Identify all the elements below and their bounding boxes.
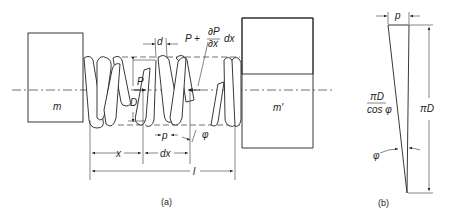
label-pitch: p <box>161 130 168 141</box>
label-wire-diameter: d <box>157 36 163 47</box>
force-right-leader <box>198 42 208 86</box>
label-b-height: πD <box>420 103 434 114</box>
label-b-angle: φ <box>373 150 380 161</box>
mass-right-outline <box>242 18 313 148</box>
mass-right-block <box>242 18 313 74</box>
label-helix-angle: φ <box>202 129 209 140</box>
label-force-right-suffix: dx <box>224 33 236 44</box>
label-element-length: dx <box>160 148 172 159</box>
label-partial-num: ∂P <box>208 26 220 37</box>
label-force-left: P <box>137 76 144 87</box>
spring-coils <box>84 55 241 128</box>
label-total-length: l <box>193 166 196 177</box>
label-mass-left: m <box>53 101 61 112</box>
figure-b: p πD πD cos φ φ (b) <box>367 10 434 208</box>
spring-diagram: D P P + ∂P ∂x dx d p φ x <box>0 0 449 220</box>
label-b-pitch: p <box>394 10 401 21</box>
label-partial-den: ∂x <box>208 38 219 49</box>
label-b-hyp-den: cos φ <box>367 104 392 115</box>
label-mass-right: m' <box>273 102 284 113</box>
label-position: x <box>115 148 122 159</box>
label-b-hyp-num: πD <box>370 91 384 102</box>
caption-b: (b) <box>378 198 389 208</box>
label-force-right-prefix: P + <box>185 33 200 44</box>
caption-a: (a) <box>161 197 172 207</box>
coil-section-right <box>211 82 224 126</box>
label-coil-diameter: D <box>130 97 137 108</box>
figure-a: D P P + ∂P ∂x dx d p φ x <box>12 18 332 207</box>
